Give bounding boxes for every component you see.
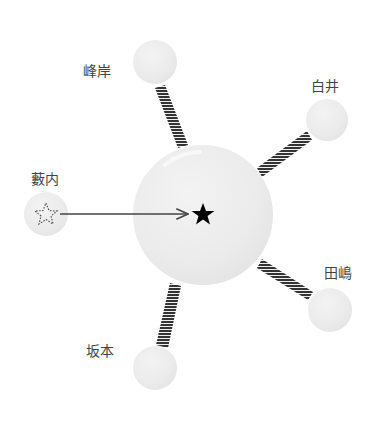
node-sakamoto[interactable] xyxy=(133,346,177,390)
node-minegishi[interactable] xyxy=(133,40,177,84)
node-tajima[interactable] xyxy=(308,288,352,332)
link-minegishi xyxy=(155,85,188,148)
label-tajima: 田嶋 xyxy=(324,262,353,282)
node-shirai[interactable] xyxy=(306,99,348,141)
relationship-diagram: 峰岸 白井 藪内 田嶋 坂本 xyxy=(0,0,374,425)
label-minegishi: 峰岸 xyxy=(83,60,112,80)
link-tajima xyxy=(257,259,313,300)
label-yabuuchi: 藪内 xyxy=(31,168,60,188)
label-sakamoto: 坂本 xyxy=(86,340,115,360)
link-shirai xyxy=(257,131,312,177)
diagram-canvas xyxy=(0,0,374,425)
link-sakamoto xyxy=(156,283,181,348)
label-shirai: 白井 xyxy=(311,75,340,95)
